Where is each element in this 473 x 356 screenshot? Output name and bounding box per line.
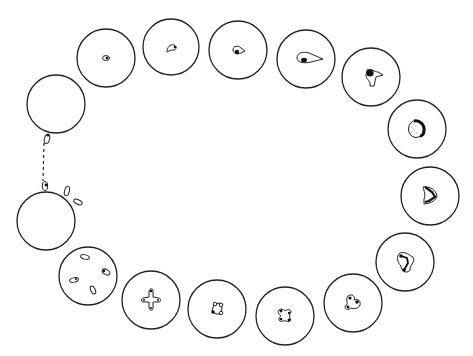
body-icon	[80, 254, 90, 261]
dashed-connector	[43, 143, 44, 181]
body-icon	[73, 198, 83, 206]
cell-stage-8	[401, 167, 459, 225]
cell-stage-6	[342, 48, 400, 106]
cell-stage-3	[143, 19, 199, 75]
cell-stage-2	[77, 29, 135, 87]
cell-stage-12	[188, 280, 246, 338]
cell-cycle-diagram	[0, 0, 473, 356]
cell-stage-7	[388, 100, 446, 158]
cell-stage-13	[122, 271, 180, 329]
cell-stage-9	[376, 233, 434, 291]
cell-stage-1	[27, 75, 85, 144]
body-icon	[101, 268, 111, 276]
diagram-canvas	[0, 0, 473, 356]
cell-stage-10	[324, 274, 382, 332]
body-icon	[69, 277, 79, 284]
body-icon	[89, 285, 97, 294]
cell-stage-15	[17, 182, 83, 251]
cell-stage-11	[256, 287, 314, 345]
cell-stage-5	[277, 30, 335, 88]
cell-stage-14	[59, 247, 117, 305]
nucleus-icon	[297, 52, 323, 63]
body-icon	[63, 186, 70, 197]
cell-stage-4	[209, 21, 267, 79]
